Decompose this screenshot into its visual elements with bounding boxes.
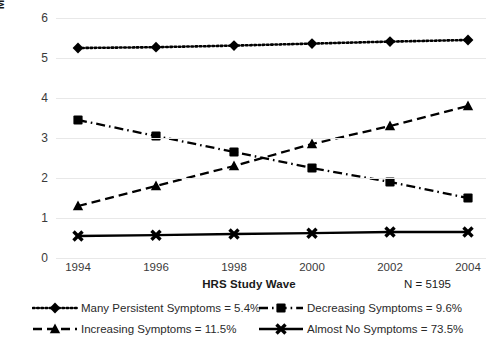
data-point-diamond [151, 42, 162, 53]
y-tick-label: 5 [41, 52, 48, 64]
gridline [56, 138, 486, 139]
legend-marker-diamond [32, 300, 78, 316]
series-x [74, 228, 473, 241]
legend-item[interactable]: Almost No Symptoms = 73.5% [258, 321, 463, 337]
legend-label: Decreasing Symptoms = 9.6% [307, 302, 462, 314]
gridline [56, 98, 486, 99]
data-point-square [151, 131, 160, 140]
data-point-square [229, 147, 238, 156]
series-diamond [73, 35, 474, 54]
data-point-square [463, 193, 472, 202]
x-tick-label: 1994 [65, 262, 91, 274]
data-point-diamond [50, 303, 61, 314]
legend-sample [258, 300, 304, 316]
x-tick-label: 2002 [377, 262, 403, 274]
data-point-square [307, 163, 316, 172]
y-tick-label: 0 [41, 252, 48, 264]
x-tick-label: 2000 [299, 262, 325, 274]
gridline [56, 18, 486, 19]
data-point-square [276, 303, 285, 312]
y-axis-tick-labels: 0123456 [0, 0, 56, 276]
data-point-diamond [385, 36, 396, 47]
legend-sample [32, 300, 78, 316]
y-tick-label: 2 [41, 172, 48, 184]
legend-marker-square [258, 300, 304, 316]
gridline [56, 58, 486, 59]
x-tick-label: 1996 [143, 262, 169, 274]
data-point-diamond [73, 43, 84, 54]
chart-legend: Many Persistent Symptoms = 5.4%Decreasin… [0, 300, 498, 346]
y-tick-label: 1 [41, 212, 48, 224]
legend-item[interactable]: Increasing Symptoms = 11.5% [32, 321, 236, 337]
data-point-diamond [229, 40, 240, 51]
gridline [56, 178, 486, 179]
legend-marker-x [258, 321, 304, 337]
chart-figure: Mean # of Depressive Symptoms 0123456 19… [0, 0, 498, 352]
legend-label: Many Persistent Symptoms = 5.4% [81, 302, 260, 314]
data-point-triangle [229, 161, 239, 171]
data-point-diamond [463, 35, 474, 46]
gridline [56, 218, 486, 219]
y-tick-label: 6 [41, 12, 48, 24]
plot-area [56, 18, 486, 258]
y-tick-label: 3 [41, 132, 48, 144]
y-tick-label: 4 [41, 92, 48, 104]
data-point-diamond [307, 38, 318, 49]
legend-sample [258, 321, 304, 337]
legend-item[interactable]: Decreasing Symptoms = 9.6% [258, 300, 462, 316]
data-point-square [73, 115, 82, 124]
series-square [73, 115, 472, 202]
legend-item[interactable]: Many Persistent Symptoms = 5.4% [32, 300, 260, 316]
data-point-triangle [463, 101, 473, 111]
legend-sample [32, 321, 78, 337]
legend-label: Almost No Symptoms = 73.5% [307, 323, 463, 335]
x-tick-label: 1998 [221, 262, 247, 274]
legend-marker-triangle [32, 321, 78, 337]
gridline [56, 258, 486, 259]
series-triangle [73, 101, 473, 211]
legend-label: Increasing Symptoms = 11.5% [81, 323, 236, 335]
x-tick-label: 2004 [455, 262, 481, 274]
sample-size-annotation: N = 5195 [404, 278, 451, 290]
